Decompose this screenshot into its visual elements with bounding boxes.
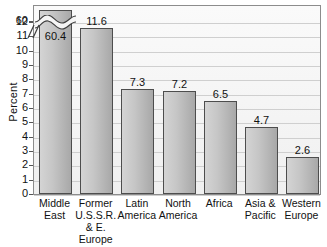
y-axis-tick-label: 8 (22, 73, 28, 84)
y-axis-tick-label: 2 (22, 159, 28, 170)
x-axis-category-label: Asia & Pacific (237, 197, 284, 221)
bar (286, 157, 319, 194)
x-axis-category-label: Western Europe (278, 197, 325, 221)
plot-area: 60.411.67.37.26.54.72.6 (33, 5, 321, 195)
bar (204, 101, 237, 194)
bar-value-label: 11.6 (74, 15, 119, 27)
y-axis-tick-label: 0 (22, 188, 28, 199)
bars-layer: 60.411.67.37.26.54.72.6 (34, 6, 320, 194)
bar (163, 91, 196, 194)
y-axis-tick-label: 5 (22, 116, 28, 127)
y-axis-tick-label: 3 (22, 145, 28, 156)
bar (245, 127, 278, 194)
x-axis-category-label: Africa (196, 197, 243, 209)
bar-value-label: 4.7 (239, 114, 284, 126)
bar-value-label: 7.3 (115, 76, 160, 88)
gridline (34, 195, 320, 196)
x-axis-category-labels: Middle EastFormer U.S.S.R. & E. EuropeLa… (33, 197, 321, 247)
bar-value-label: 2.6 (280, 144, 325, 156)
y-axis-tick-label: 9 (22, 59, 28, 70)
y-axis-tick-label: 10 (16, 45, 28, 56)
x-axis-category-label: Middle East (31, 197, 78, 221)
y-axis-tick-label: 6 (22, 102, 28, 113)
y-axis-broken-top-tick-label: 60 (16, 15, 28, 26)
bar-value-label: 7.2 (157, 78, 202, 90)
bar-value-label: 6.5 (198, 88, 243, 100)
y-axis-tick-label: 1 (22, 174, 28, 185)
y-axis-tick-label: 4 (22, 131, 28, 142)
y-axis-tick-label: 7 (22, 88, 28, 99)
x-axis-category-label: Former U.S.S.R. & E. Europe (72, 197, 119, 245)
bar-value-label: 60.4 (33, 30, 78, 42)
x-axis-category-label: North America (155, 197, 202, 221)
y-axis-tick-labels: 012345678910111260 (0, 0, 33, 247)
bar (121, 89, 154, 194)
bar-chart: Percent 012345678910111260 60.411.67.37.… (0, 0, 327, 247)
x-axis-category-label: Latin America (113, 197, 160, 221)
y-axis-tick-label: 11 (17, 30, 28, 41)
bar (80, 28, 113, 194)
